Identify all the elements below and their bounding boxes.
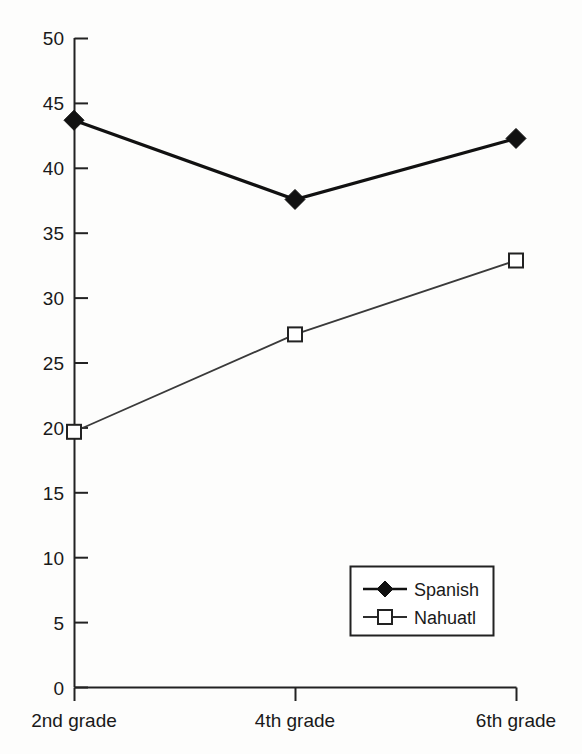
y-tick-label-15: 15 [43, 483, 64, 504]
legend-label-spanish: Spanish [414, 580, 479, 600]
series-spanish-line [74, 120, 516, 199]
series-nahuatl [67, 254, 523, 439]
legend-label-nahuatl: Nahuatl [414, 608, 476, 628]
open-square-icon [378, 610, 392, 624]
series-nahuatl-line [74, 261, 516, 432]
x-label-6th-grade: 6th grade [476, 710, 556, 731]
line-chart: 50 45 40 35 30 25 20 15 10 5 0 2nd grade… [0, 0, 582, 754]
x-axis-category-labels: 2nd grade 4th grade 6th grade [31, 710, 556, 731]
legend-item-nahuatl[interactable]: Nahuatl [363, 608, 476, 628]
data-point-nahuatl-6th-grade [509, 254, 523, 268]
x-label-4th-grade: 4th grade [255, 710, 335, 731]
y-tick-label-0: 0 [53, 678, 64, 699]
y-tick-label-40: 40 [43, 158, 64, 179]
y-tick-label-20: 20 [43, 418, 64, 439]
data-point-nahuatl-2nd-grade [67, 425, 81, 439]
chart-canvas: 50 45 40 35 30 25 20 15 10 5 0 2nd grade… [0, 0, 582, 754]
y-axis-tick-labels: 50 45 40 35 30 25 20 15 10 5 0 [43, 28, 64, 699]
data-point-spanish-4th-grade [285, 189, 305, 209]
data-point-nahuatl-4th-grade [288, 327, 302, 341]
data-point-spanish-6th-grade [506, 128, 526, 148]
y-tick-label-45: 45 [43, 93, 64, 114]
series-spanish [64, 110, 526, 209]
y-tick-label-30: 30 [43, 288, 64, 309]
x-axis-ticks [75, 688, 517, 702]
chart-legend: Spanish Nahuatl [351, 567, 494, 636]
y-tick-label-25: 25 [43, 353, 64, 374]
data-point-spanish-2nd-grade [64, 110, 84, 130]
y-tick-label-50: 50 [43, 28, 64, 49]
y-tick-label-5: 5 [53, 613, 64, 634]
y-axis-ticks [75, 39, 89, 688]
x-label-2nd-grade: 2nd grade [31, 710, 117, 731]
y-tick-label-10: 10 [43, 548, 64, 569]
y-tick-label-35: 35 [43, 223, 64, 244]
